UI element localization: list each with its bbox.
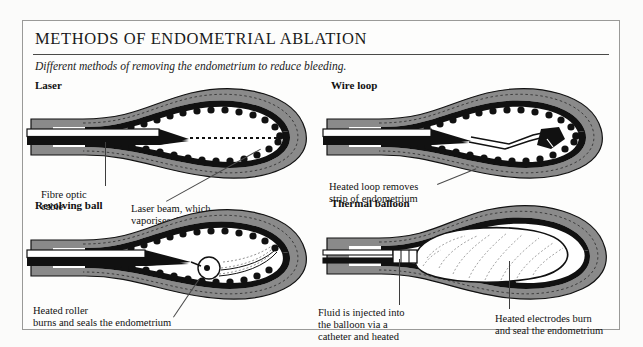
panel-thermal-balloon: Thermal balloon: [319, 197, 619, 317]
laser-uterus-diagram: [23, 79, 323, 189]
panel-wire-loop-title: Wire loop: [331, 79, 377, 91]
leader-heated-electrodes: [509, 261, 510, 309]
caption-fluid-injected: Fluid is injected into the balloon via a…: [318, 307, 428, 344]
page-subtitle: Different methods of removing the endome…: [35, 60, 346, 72]
wire-loop-uterus-diagram: [319, 79, 619, 189]
thermal-balloon-uterus-diagram: [319, 197, 619, 309]
caption-heated-roller: Heated roller burns and seals the endome…: [33, 305, 243, 329]
panel-laser-title: Laser: [35, 79, 62, 91]
panel-thermal-balloon-title: Thermal balloon: [331, 197, 410, 209]
page-title: METHODS OF ENDOMETRIAL ABLATION: [35, 29, 367, 49]
revolving-ball-uterus-diagram: [23, 199, 323, 311]
panel-revolving-ball: Revolving ball: [23, 199, 323, 314]
leader-fluid-injected: [399, 259, 400, 305]
leader-fibre-optic: [105, 142, 106, 186]
illustration-frame: METHODS OF ENDOMETRIAL ABLATION Differen…: [22, 20, 620, 330]
panel-wire-loop: Wire loop: [319, 79, 619, 189]
caption-heated-electrodes: Heated electrodes burn and seal the endo…: [495, 313, 643, 337]
title-rule: [33, 54, 609, 55]
panel-revolving-ball-title: Revolving ball: [35, 199, 103, 211]
panel-laser: Laser: [23, 79, 323, 189]
page-canvas: METHODS OF ENDOMETRIAL ABLATION Differen…: [0, 0, 643, 347]
